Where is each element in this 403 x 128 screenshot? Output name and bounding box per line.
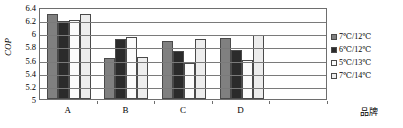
x-tick-label: A — [65, 105, 72, 115]
y-tick-label: 5.4 — [25, 69, 36, 78]
bar — [220, 38, 231, 99]
y-tick-label: 5.6 — [25, 56, 36, 65]
y-tick-label: 5 — [32, 96, 36, 105]
legend-label: 7℃/12℃ — [339, 33, 371, 41]
x-tick-mark — [269, 101, 270, 104]
legend-label: 6℃/12℃ — [339, 46, 371, 54]
bar — [47, 14, 58, 99]
legend-swatch-icon — [331, 34, 337, 40]
bar — [80, 14, 91, 99]
plot-area — [39, 8, 327, 100]
legend-swatch-icon — [331, 47, 337, 53]
legend: 7℃/12℃6℃/12℃5℃/13℃7℃/14℃ — [331, 31, 401, 83]
legend-item[interactable]: 7℃/14℃ — [331, 70, 401, 82]
bar — [104, 58, 115, 99]
x-axis-tick-labels: ABCD — [39, 101, 327, 121]
gridline — [40, 35, 326, 36]
x-tick-mark — [97, 101, 98, 104]
x-tick-label: D — [237, 105, 244, 115]
gridline — [40, 22, 326, 23]
legend-item[interactable]: 6℃/12℃ — [331, 44, 401, 56]
bar — [184, 63, 195, 99]
y-tick-label: 5.2 — [25, 83, 36, 92]
bar-chart: COP 6.46.265.85.65.45.25 ABCD 品牌 7℃/12℃6… — [0, 0, 403, 128]
y-tick-label: 6.2 — [25, 17, 36, 26]
gridline — [40, 48, 326, 49]
y-axis-title: COP — [3, 42, 13, 56]
legend-swatch-icon — [331, 73, 337, 79]
legend-item[interactable]: 5℃/13℃ — [331, 57, 401, 69]
x-tick-label: C — [180, 105, 186, 115]
x-tick-mark — [327, 101, 328, 104]
gridline — [40, 75, 326, 76]
bar — [137, 57, 148, 99]
bar — [242, 60, 253, 99]
y-tick-label: 5.8 — [25, 43, 36, 52]
x-tick-mark — [212, 101, 213, 104]
bar — [162, 41, 173, 99]
y-tick-label: 6 — [32, 30, 36, 39]
legend-label: 7℃/14℃ — [339, 72, 371, 80]
bar — [126, 37, 137, 99]
legend-item[interactable]: 7℃/12℃ — [331, 31, 401, 43]
legend-label: 5℃/13℃ — [339, 59, 371, 67]
gridline — [40, 88, 326, 89]
x-tick-mark — [154, 101, 155, 104]
x-tick-label: B — [122, 105, 128, 115]
gridline — [40, 62, 326, 63]
y-tick-label: 6.4 — [25, 4, 36, 13]
legend-swatch-icon — [331, 60, 337, 66]
bar — [253, 35, 264, 99]
y-axis-tick-labels: 6.46.265.85.65.45.25 — [14, 8, 38, 100]
x-axis-title: 品牌 — [360, 105, 378, 118]
